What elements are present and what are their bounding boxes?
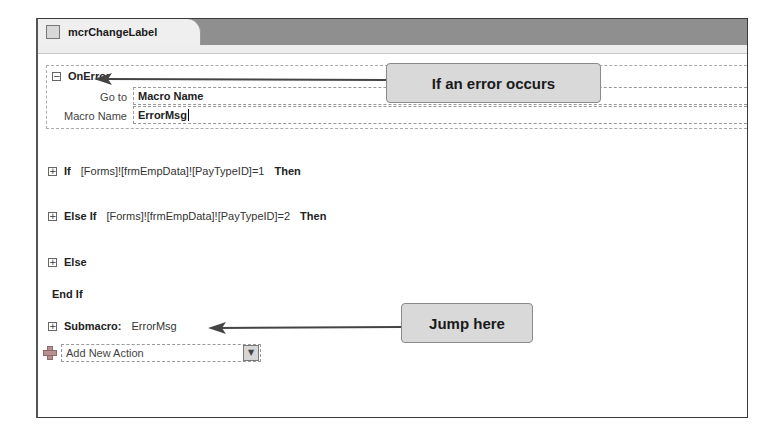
callout-if-an-error-occurs: If an error occurs bbox=[386, 63, 601, 103]
callout-jump-here: Jump here bbox=[401, 303, 533, 343]
